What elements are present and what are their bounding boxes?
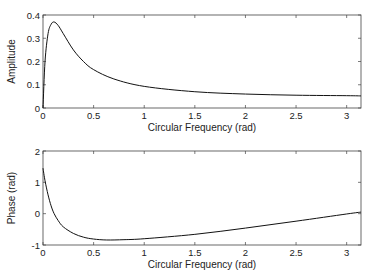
x-axis-label: Circular Frequency (rad)	[148, 122, 256, 133]
x-tick-label: 0	[40, 247, 45, 258]
y-tick-label: 0.4	[27, 10, 40, 21]
x-tick-label: 3	[344, 110, 349, 121]
data-line	[43, 22, 361, 108]
x-tick-label: 2	[243, 110, 248, 121]
y-tick-label: 0	[35, 208, 40, 219]
x-tick-label: 2	[243, 247, 248, 258]
y-tick-label: 0.3	[27, 33, 40, 44]
axes-box	[43, 15, 361, 108]
y-tick-label: 0	[35, 103, 40, 114]
x-tick-label: 1.5	[188, 247, 201, 258]
phase-plot: 00.511.522.53-1012Circular Frequency (ra…	[6, 146, 361, 271]
x-tick-label: 1	[142, 247, 147, 258]
x-tick-label: 3	[344, 247, 349, 258]
x-tick-label: 0.5	[87, 247, 100, 258]
amplitude-plot: 00.511.522.5300.10.20.30.4Circular Frequ…	[6, 10, 361, 134]
x-tick-label: 0	[40, 110, 45, 121]
y-tick-label: 2	[35, 146, 40, 157]
y-tick-label: -1	[32, 240, 40, 251]
x-axis-label: Circular Frequency (rad)	[148, 259, 256, 270]
y-tick-label: 1	[35, 177, 40, 188]
figure: 00.511.522.5300.10.20.30.4Circular Frequ…	[0, 0, 380, 278]
x-tick-label: 1.5	[188, 110, 201, 121]
data-line	[43, 168, 361, 240]
x-tick-label: 1	[142, 110, 147, 121]
y-tick-label: 0.2	[27, 56, 40, 67]
x-tick-label: 2.5	[289, 247, 302, 258]
y-axis-label: Phase (rad)	[6, 172, 17, 224]
y-tick-label: 0.1	[27, 79, 40, 90]
axes-box	[43, 151, 361, 245]
x-tick-label: 2.5	[289, 110, 302, 121]
y-axis-label: Amplitude	[6, 39, 17, 84]
x-tick-label: 0.5	[87, 110, 100, 121]
